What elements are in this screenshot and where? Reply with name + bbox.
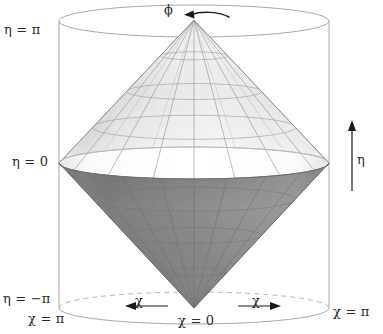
label-chi-equals-zero: χ = 0	[178, 313, 214, 328]
label-eta-equals-minus-pi: η = −π	[3, 291, 51, 306]
label-eta-axis: η	[357, 152, 365, 167]
label-chi-equals-pi-left: χ = π	[28, 311, 65, 326]
label-eta-equals-zero: η = 0	[12, 154, 48, 169]
upper-cone	[59, 20, 329, 179]
chi-left-arrow	[125, 302, 168, 310]
label-chi-right: χ	[252, 293, 260, 308]
double-cone-diagram	[0, 0, 383, 334]
label-phi: ϕ	[164, 2, 173, 17]
label-chi-equals-pi-right: χ = π	[333, 304, 370, 319]
label-eta-equals-pi: η = π	[4, 22, 41, 37]
phi-rotation-arrow	[184, 11, 229, 19]
label-chi-left: χ	[135, 293, 143, 308]
figure-canvas: η = π η = 0 η = −π χ = π χ = π χ = 0 χ χ…	[0, 0, 383, 334]
eta-axis-arrow	[348, 120, 356, 191]
